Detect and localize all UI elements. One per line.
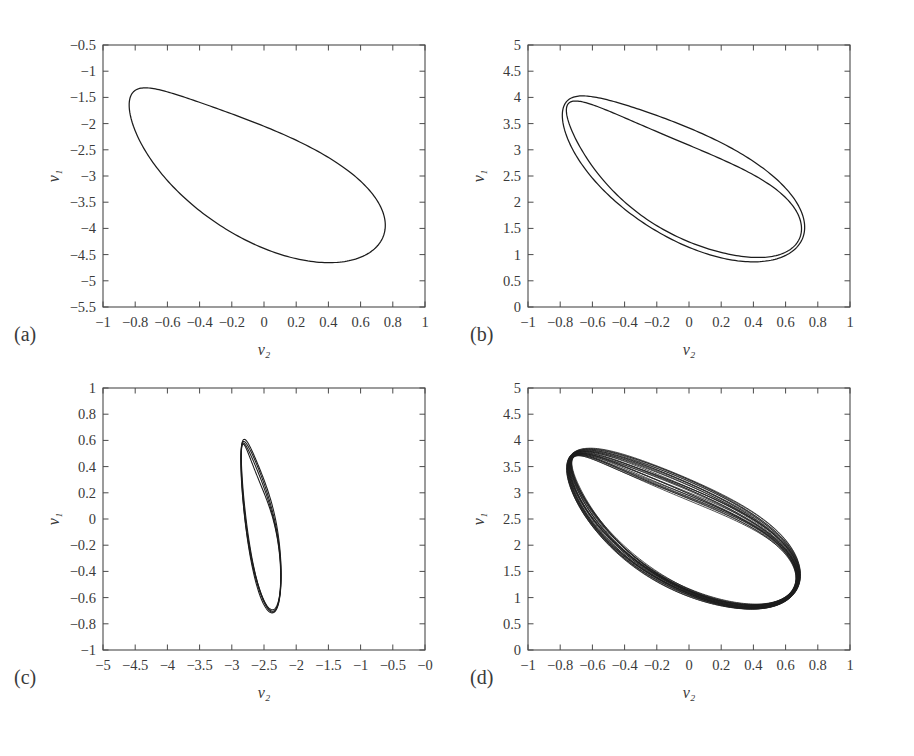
y-tick-label: 4.5 [503,63,521,79]
x-tick-label: −1 [95,314,110,330]
x-tick-label: −0.5 [380,657,406,673]
y-tick-label: −0.2 [70,537,96,553]
x-tick-label: 0.8 [809,314,827,330]
y-tick-label: 1 [514,590,521,606]
y-tick-label: 1 [514,247,521,263]
y-tick-label: 5 [514,37,521,53]
y-tick-label: 3 [514,485,521,501]
x-tick-label: 0 [685,314,692,330]
y-tick-label: −4 [81,220,97,236]
x-tick-label: 0.2 [712,314,730,330]
y-tick-label: 4 [514,432,522,448]
phase-portrait-panel-c: −5−4.5−4−3.5−3−2.5−2−1.5−1−0.5−0−1−0.8−0… [45,378,435,712]
x-axis-label: ν₂ [258,341,271,358]
y-tick-label: −0.5 [70,37,96,53]
y-tick-label: −0.4 [70,563,97,579]
x-tick-label: 0.6 [352,314,370,330]
x-tick-label: −3.5 [186,657,212,673]
y-tick-label: −5.5 [70,299,96,315]
x-tick-label: −0.4 [186,314,213,330]
x-tick-label: 0 [260,314,267,330]
axes-frame [528,388,850,650]
x-tick-label: −3 [224,657,239,673]
y-tick-label: −0.8 [70,616,96,632]
y-tick-label: 0.5 [503,616,521,632]
trajectory-group [129,88,385,263]
x-tick-label: −0.4 [611,657,638,673]
x-tick-label: −0.8 [547,314,573,330]
x-tick-label: 1 [846,657,853,673]
x-tick-label: −0.6 [579,657,605,673]
panel-tag-d: (d) [470,666,493,689]
x-tick-label: −1.5 [315,657,341,673]
phase-portrait-panel-d: −1−0.8−0.6−0.4−0.200.20.40.60.8100.511.5… [470,378,860,712]
x-tick-label: −4.5 [122,657,148,673]
y-axis: −5.5−5−4.5−4−3.5−3−2.5−2−1.5−1−0.5 [70,37,425,315]
x-tick-label: 0.8 [809,657,827,673]
y-tick-label: 0 [514,299,521,315]
y-axis: −1−0.8−0.6−0.4−0.200.20.40.60.81 [70,380,425,658]
y-tick-label: −5 [81,273,96,289]
x-tick-label: −0.2 [219,314,245,330]
y-tick-label: 2.5 [503,168,521,184]
y-tick-label: −3 [81,168,96,184]
y-tick-label: 5 [514,380,521,396]
y-tick-label: −1.5 [70,89,96,105]
orbit-curve [129,88,385,263]
phase-portrait-panel-b: −1−0.8−0.6−0.4−0.200.20.40.60.8100.511.5… [470,35,860,369]
panel-tag-b: (b) [470,323,493,346]
x-axis: −1−0.8−0.6−0.4−0.200.20.40.60.81 [520,388,853,673]
x-axis-label: ν₂ [683,341,696,358]
trajectory-group [241,439,281,613]
y-tick-label: 3.5 [503,116,521,132]
y-tick-label: 4.5 [503,406,521,422]
x-tick-label: 0.6 [777,657,795,673]
x-tick-label: 0.4 [319,314,338,330]
y-axis: 00.511.522.533.544.55 [503,37,850,315]
y-tick-label: 0.4 [78,459,97,475]
trajectory-group [567,448,801,609]
y-tick-label: −1 [81,642,96,658]
x-tick-label: −1 [520,314,535,330]
x-tick-label: −0.6 [154,314,180,330]
y-tick-label: 1 [89,380,96,396]
x-tick-label: −0.2 [644,314,670,330]
y-axis-label: ν₁ [45,513,62,526]
x-tick-label: 0.4 [744,314,763,330]
y-tick-label: −2 [81,116,96,132]
axes-frame [103,45,425,307]
y-axis-label: ν₁ [470,513,487,526]
y-tick-label: 1.5 [503,563,521,579]
y-tick-label: −3.5 [70,194,96,210]
x-axis: −1−0.8−0.6−0.4−0.200.20.40.60.81 [520,45,853,330]
y-tick-label: 0.8 [78,406,96,422]
trajectory-group [562,96,804,262]
x-tick-label: 0.2 [287,314,305,330]
x-tick-label: −0.8 [547,657,573,673]
y-axis-label: ν₁ [470,170,487,183]
x-tick-label: −0 [417,657,432,673]
y-tick-label: −2.5 [70,142,96,158]
x-axis-label: ν₂ [258,684,271,701]
y-tick-label: 0 [514,642,521,658]
x-tick-label: −0.8 [122,314,148,330]
x-tick-label: −2 [288,657,303,673]
y-axis-label: ν₁ [45,170,62,183]
figure-panel-grid: −1−0.8−0.6−0.4−0.200.20.40.60.81−5.5−5−4… [0,0,914,756]
panel-tag-c: (c) [14,666,36,689]
x-tick-label: −1 [353,657,368,673]
axes-frame [103,388,425,650]
y-tick-label: −0.6 [70,590,96,606]
panel-tag-a: (a) [14,323,36,346]
x-tick-label: −0.6 [579,314,605,330]
phase-portrait-panel-a: −1−0.8−0.6−0.4−0.200.20.40.60.81−5.5−5−4… [45,35,435,369]
y-tick-label: −1 [81,63,96,79]
x-tick-label: 0.4 [744,657,763,673]
plot-canvas: −1−0.8−0.6−0.4−0.200.20.40.60.8100.511.5… [470,35,860,369]
y-tick-label: 0.5 [503,273,521,289]
x-tick-label: 0.8 [384,314,402,330]
x-tick-label: 0.6 [777,314,795,330]
plot-canvas: −1−0.8−0.6−0.4−0.200.20.40.60.8100.511.5… [470,378,860,712]
x-tick-label: 1 [421,314,428,330]
y-tick-label: 0.2 [78,485,96,501]
